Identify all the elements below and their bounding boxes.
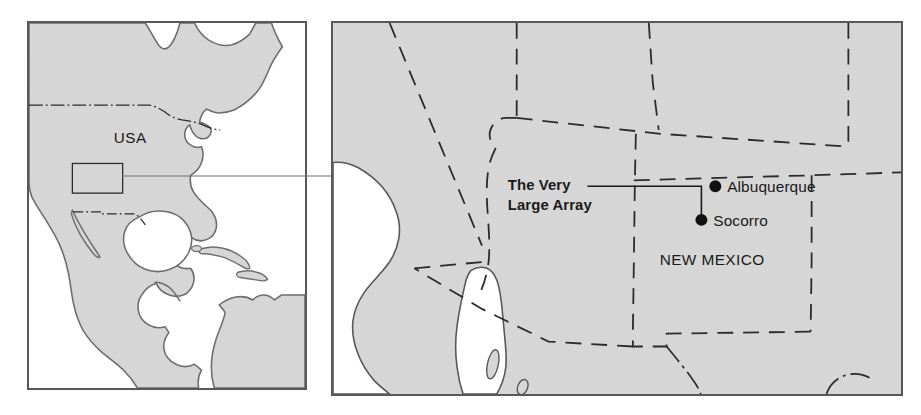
new-mexico-state-label: NEW MEXICO (660, 251, 765, 268)
land-background (333, 23, 901, 394)
gulf-of-mexico (124, 211, 192, 272)
usa-country-label: USA (114, 129, 147, 146)
vla-annotation-line1: The Very (508, 177, 571, 193)
small-island (192, 246, 202, 252)
detail-map-panel: The Very Large Array Albuquerque Socorro… (331, 21, 903, 396)
socorro-label: Socorro (713, 212, 768, 229)
overview-map-panel: USA (27, 21, 307, 390)
south-america-landmass (211, 295, 305, 388)
detail-map-svg: The Very Large Array Albuquerque Socorro… (333, 23, 901, 394)
albuquerque-label: Albuquerque (727, 178, 815, 195)
vla-annotation-line2: Large Array (508, 197, 593, 213)
socorro-marker (695, 214, 707, 226)
vla-location-figure: USA (0, 0, 921, 415)
albuquerque-marker (709, 180, 721, 192)
overview-map-svg: USA (29, 23, 305, 388)
